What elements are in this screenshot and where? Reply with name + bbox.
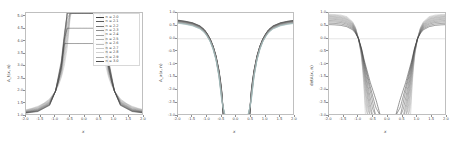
legend-line-swatch [96, 21, 104, 22]
y-tick-label: 4.5 [12, 26, 23, 30]
plot-area-middle [178, 13, 294, 115]
subplot-left: A_t(x, n) x -2.0-1.5-1.0-0.50.00.51.01.5… [0, 0, 151, 147]
x-axis-label-left: x [82, 129, 84, 134]
y-axis-label-right: detA(x, n) [309, 65, 314, 86]
x-tick-label: 0.0 [229, 117, 243, 121]
y-tick-mark [23, 78, 25, 79]
x-tick-mark [84, 115, 85, 117]
x-tick-label: -2.0 [18, 117, 32, 121]
legend-line-swatch [96, 61, 104, 62]
y-tick-label: -0.5 [164, 49, 175, 53]
legend-line-swatch [96, 44, 104, 45]
legend-line-swatch [96, 52, 104, 53]
data-curve [329, 18, 446, 115]
subplot-right: detA(x, n) x -2.0-1.5-1.0-0.50.00.51.01.… [302, 0, 454, 147]
data-curve [178, 22, 294, 115]
x-tick-mark [343, 115, 344, 117]
x-tick-label: 0.5 [92, 117, 106, 121]
y-tick-mark [175, 38, 177, 39]
y-tick-mark [175, 89, 177, 90]
data-curve [178, 23, 294, 115]
x-tick-label: 1.0 [107, 117, 121, 121]
y-tick-label: 3.5 [12, 51, 23, 55]
legend-line-swatch [96, 30, 104, 31]
y-tick-mark [326, 63, 328, 64]
y-axis-label-left: A_t(x, n) [6, 64, 11, 82]
y-axis-label-middle: A_x(x, n) [158, 63, 163, 82]
data-curve [178, 21, 294, 115]
data-curve [329, 17, 446, 115]
x-tick-label: 1.5 [424, 117, 438, 121]
x-tick-mark [40, 115, 41, 117]
y-tick-label: 1.0 [164, 10, 175, 14]
x-tick-mark [143, 115, 144, 117]
y-tick-label: 4.0 [12, 39, 23, 43]
x-axis-label-middle: x [233, 129, 235, 134]
y-tick-mark [326, 89, 328, 90]
x-tick-mark [265, 115, 266, 117]
x-tick-label: -0.5 [365, 117, 379, 121]
x-tick-label: 0.5 [243, 117, 257, 121]
y-tick-label: -2.0 [315, 87, 326, 91]
x-tick-label: 1.5 [272, 117, 286, 121]
y-tick-label: -2.5 [315, 100, 326, 104]
legend-item: n = 3.0 [96, 60, 137, 64]
plot-area-right [329, 13, 446, 115]
x-tick-mark [279, 115, 280, 117]
y-tick-mark [175, 115, 177, 116]
x-tick-mark [206, 115, 207, 117]
x-tick-mark [128, 115, 129, 117]
x-tick-label: -2.0 [321, 117, 335, 121]
y-tick-label: 1.0 [12, 113, 23, 117]
x-tick-mark [54, 115, 55, 117]
data-curve [178, 21, 294, 115]
legend-label: n = 3.0 [106, 60, 119, 64]
y-tick-label: -3.0 [164, 113, 175, 117]
y-tick-mark [23, 65, 25, 66]
y-tick-mark [23, 15, 25, 16]
data-curve [178, 23, 294, 115]
x-tick-label: -0.5 [214, 117, 228, 121]
x-tick-mark [69, 115, 70, 117]
data-curve [329, 19, 446, 115]
data-curve [178, 21, 294, 115]
x-tick-label: -1.5 [336, 117, 350, 121]
x-tick-mark [294, 115, 295, 117]
legend-line-swatch [96, 39, 104, 40]
data-curve [329, 20, 446, 115]
y-tick-mark [175, 50, 177, 51]
data-curve [178, 23, 294, 115]
x-tick-mark [431, 115, 432, 117]
legend-line-swatch [96, 48, 104, 49]
x-tick-label: -1.0 [48, 117, 62, 121]
x-axis-label-right: x [384, 129, 386, 134]
x-tick-label: 1.0 [410, 117, 424, 121]
y-tick-label: 0.0 [164, 36, 175, 40]
legend-line-swatch [96, 35, 104, 36]
data-curve [329, 22, 446, 115]
y-tick-mark [23, 90, 25, 91]
y-tick-label: -1.0 [164, 62, 175, 66]
x-tick-label: 1.0 [258, 117, 272, 121]
y-tick-label: -3.0 [315, 113, 326, 117]
axes-right [328, 12, 446, 115]
data-curve [329, 16, 446, 115]
data-curve [329, 15, 446, 115]
y-tick-label: -0.5 [315, 49, 326, 53]
y-tick-label: 0.5 [164, 23, 175, 27]
y-tick-label: 2.0 [12, 88, 23, 92]
subplot-middle: A_x(x, n) x -2.0-1.5-1.0-0.50.00.51.01.5… [151, 0, 302, 147]
x-tick-label: 2.0 [136, 117, 150, 121]
y-tick-mark [326, 102, 328, 103]
x-tick-label: 0.5 [395, 117, 409, 121]
y-tick-label: -1.5 [315, 74, 326, 78]
y-tick-label: 1.0 [315, 10, 326, 14]
data-curve [178, 22, 294, 115]
y-tick-mark [175, 102, 177, 103]
x-tick-label: -1.5 [33, 117, 47, 121]
y-tick-label: 3.0 [12, 63, 23, 67]
x-tick-mark [416, 115, 417, 117]
y-tick-mark [23, 102, 25, 103]
x-tick-label: -1.0 [351, 117, 365, 121]
y-tick-label: 1.5 [12, 101, 23, 105]
